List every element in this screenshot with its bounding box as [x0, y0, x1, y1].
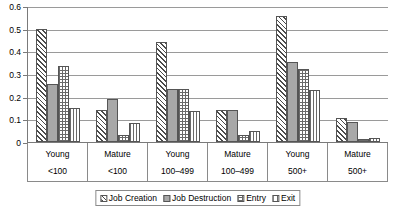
category-age-label: Young	[46, 149, 70, 159]
bar	[58, 66, 69, 142]
legend-item: Job Destruction	[163, 193, 231, 203]
grouped-bar-chart: 00.10.20.30.40.50.6 Young<100Mature<100Y…	[0, 0, 395, 214]
plot-area	[27, 7, 388, 143]
bar	[156, 42, 167, 142]
bar	[107, 99, 118, 142]
bar	[238, 135, 249, 142]
chart-legend: Job CreationJob DestructionEntryExit	[95, 190, 300, 206]
category-age-label: Young	[286, 149, 310, 159]
category-size-label: 100–499	[221, 166, 254, 176]
y-axis-tick-label: 0	[16, 139, 21, 148]
y-axis-tick-label: 0.5	[9, 25, 21, 34]
category-age-label: Mature	[224, 149, 250, 159]
category-cell: Young500+	[268, 143, 328, 181]
category-cell: Young100–499	[148, 143, 208, 181]
legend-label: Exit	[281, 193, 295, 203]
category-cell: Mature<100	[88, 143, 148, 181]
legend-label: Entry	[246, 193, 266, 203]
bar	[336, 118, 347, 142]
bar	[309, 90, 320, 142]
bar	[276, 16, 287, 142]
bar	[298, 69, 309, 142]
bar-group	[208, 7, 268, 142]
category-cell: Mature500+	[328, 143, 387, 181]
bars-layer	[28, 7, 388, 142]
bar-group	[148, 7, 208, 142]
category-size-label: 100–499	[161, 166, 194, 176]
y-axis-tick-label: 0.1	[9, 116, 21, 125]
bar	[178, 89, 189, 142]
bar	[69, 108, 80, 142]
y-axis: 00.10.20.30.40.50.6	[0, 0, 27, 150]
bar	[189, 111, 200, 142]
bar	[216, 110, 227, 142]
bar	[249, 131, 260, 142]
category-age-label: Young	[166, 149, 190, 159]
bar-group	[268, 7, 328, 142]
bar	[118, 135, 129, 142]
bar-group	[28, 7, 88, 142]
category-cell: Young<100	[28, 143, 88, 181]
bar	[227, 110, 238, 142]
legend-swatch-icon	[237, 195, 244, 202]
legend-label: Job Destruction	[172, 193, 231, 203]
y-axis-tick-label: 0.6	[9, 3, 21, 12]
legend-label: Job Creation	[109, 193, 157, 203]
category-age-label: Mature	[104, 149, 130, 159]
bar	[167, 89, 178, 142]
bar	[47, 84, 58, 142]
bar	[347, 122, 358, 142]
bar	[96, 110, 107, 142]
bar	[129, 123, 140, 142]
bar	[369, 138, 380, 142]
bar	[287, 62, 298, 142]
y-axis-tick-label: 0.2	[9, 93, 21, 102]
bar	[36, 29, 47, 142]
legend-swatch-icon	[163, 195, 170, 202]
category-age-label: Mature	[344, 149, 370, 159]
category-size-label: 500+	[348, 166, 367, 176]
bar-group	[88, 7, 148, 142]
category-cell: Mature100–499	[208, 143, 268, 181]
legend-item: Job Creation	[100, 193, 157, 203]
y-axis-tick-label: 0.4	[9, 48, 21, 57]
legend-swatch-icon	[100, 195, 107, 202]
category-size-label: 500+	[288, 166, 307, 176]
category-axis-table: Young<100Mature<100Young100–499Mature100…	[27, 143, 388, 182]
legend-item: Entry	[237, 193, 266, 203]
legend-item: Exit	[272, 193, 295, 203]
bar-group	[328, 7, 388, 142]
category-size-label: <100	[108, 166, 127, 176]
category-size-label: <100	[48, 166, 67, 176]
bar	[358, 139, 369, 142]
legend-swatch-icon	[272, 195, 279, 202]
y-axis-tick-label: 0.3	[9, 71, 21, 80]
